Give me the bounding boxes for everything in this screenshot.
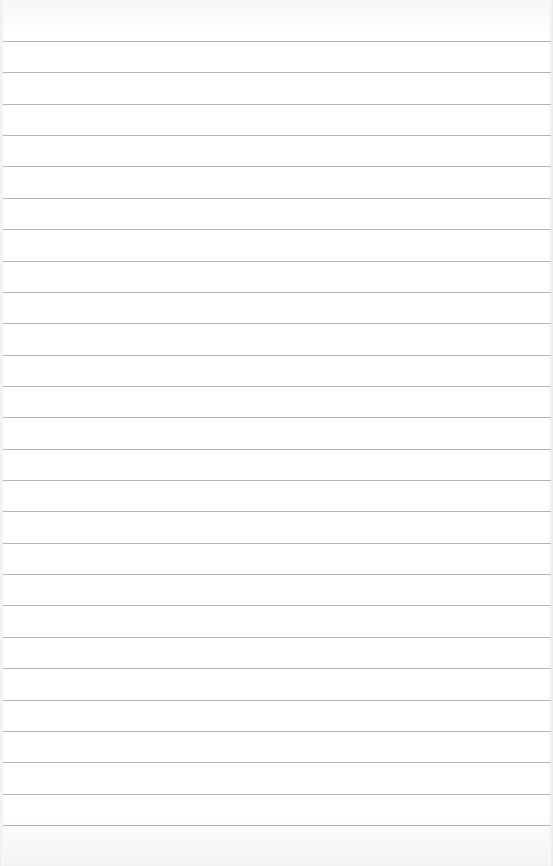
ruled-line bbox=[3, 41, 551, 42]
paper-right-edge bbox=[549, 0, 553, 866]
ruled-line bbox=[3, 574, 551, 575]
ruled-line bbox=[3, 700, 551, 701]
ruled-line bbox=[3, 762, 551, 763]
ruled-line bbox=[3, 511, 551, 512]
ruled-line bbox=[3, 198, 551, 199]
ruled-line bbox=[3, 292, 551, 293]
ruled-line bbox=[3, 449, 551, 450]
ruled-line bbox=[3, 72, 551, 73]
ruled-line bbox=[3, 386, 551, 387]
ruled-line bbox=[3, 261, 551, 262]
ruled-paper-sheet bbox=[0, 0, 553, 866]
paper-left-edge bbox=[0, 0, 4, 866]
ruled-line bbox=[3, 668, 551, 669]
ruled-line bbox=[3, 229, 551, 230]
ruled-line bbox=[3, 355, 551, 356]
ruled-line bbox=[3, 637, 551, 638]
ruled-line bbox=[3, 605, 551, 606]
ruled-line bbox=[3, 323, 551, 324]
ruled-line bbox=[3, 104, 551, 105]
ruled-line bbox=[3, 166, 551, 167]
ruled-line bbox=[3, 825, 551, 826]
ruled-line bbox=[3, 480, 551, 481]
ruled-line bbox=[3, 135, 551, 136]
ruled-line bbox=[3, 794, 551, 795]
ruled-line bbox=[3, 543, 551, 544]
ruled-line bbox=[3, 731, 551, 732]
ruled-line bbox=[3, 417, 551, 418]
